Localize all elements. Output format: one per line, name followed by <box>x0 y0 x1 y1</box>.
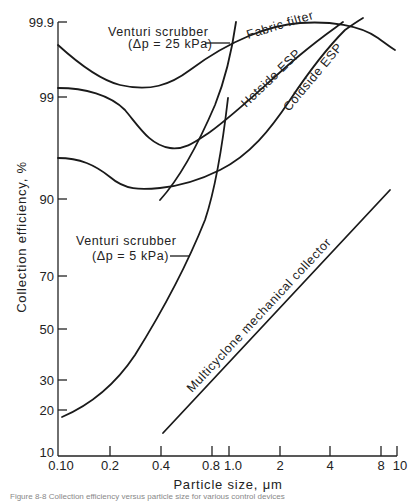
x-tick-8: 8 <box>377 458 384 473</box>
y-axis-title: Collection efficiency, % <box>14 161 29 313</box>
curve-multicyclone <box>163 190 390 433</box>
x-tick-0.4: 0.4 <box>152 458 170 473</box>
y-tick-30: 30 <box>40 373 54 388</box>
figure-caption: Figure 8-8 Collection efficiency versus … <box>10 492 285 501</box>
x-tick-0.2: 0.2 <box>101 458 119 473</box>
y-tick-labels: 99.9 99 90 70 50 30 20 10 <box>29 15 54 460</box>
x-tick-10: 10 <box>393 458 407 473</box>
y-tick-50: 50 <box>40 322 54 337</box>
y-tick-20: 20 <box>40 403 54 418</box>
y-tick-99: 99 <box>40 90 54 105</box>
x-tick-0.10: 0.10 <box>48 458 73 473</box>
y-tick-99.9: 99.9 <box>29 15 54 30</box>
y-tick-90: 90 <box>40 192 54 207</box>
efficiency-chart: 99.9 99 90 70 50 30 20 10 0.10 0.2 0.4 0… <box>0 0 420 501</box>
label-venturi-5-line1: Venturi scrubber <box>76 234 177 248</box>
x-tick-2: 2 <box>276 458 283 473</box>
y-tick-70: 70 <box>40 269 54 284</box>
curves <box>58 18 395 433</box>
label-venturi-25-line2: (Δp = 25 kPa) <box>128 37 213 51</box>
x-axis-title: Particle size, μm <box>173 477 282 492</box>
x-tick-1.0: 1.0 <box>224 458 242 473</box>
label-venturi-5-line2: (Δp = 5 kPa) <box>92 249 169 263</box>
label-fabric-filter: Fabric filter <box>245 8 316 42</box>
x-tick-4: 4 <box>326 458 333 473</box>
x-tick-labels: 0.10 0.2 0.4 0.8 1.0 2 4 8 10 <box>48 458 407 473</box>
label-multicyclone: Multicyclone mechanical collector <box>184 235 334 395</box>
x-tick-0.8: 0.8 <box>202 458 220 473</box>
